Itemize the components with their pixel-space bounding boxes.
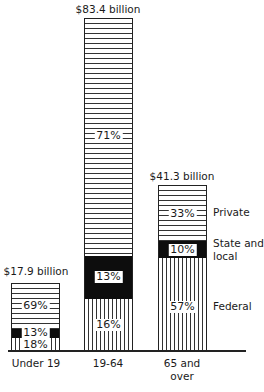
pct-private: 69%	[21, 300, 49, 312]
category-label-65-over: 65 and over	[164, 357, 200, 383]
category-label-line2: over	[164, 370, 200, 383]
legend-private: Private	[213, 206, 250, 219]
bar-19-64: 71% 13% 16%	[84, 18, 133, 351]
category-label-line1: 65 and	[164, 357, 200, 370]
pct-federal: 16%	[94, 319, 122, 331]
category-label-text: 19-64	[93, 357, 124, 369]
total-label-under-19: $17.9 billion	[4, 265, 69, 277]
x-axis-baseline	[8, 350, 246, 352]
legend-state-line2: local	[213, 250, 264, 263]
category-label-text: Under 19	[12, 357, 60, 369]
pct-private: 33%	[168, 208, 196, 220]
bar-under-19: 69% 13% 18%	[11, 283, 60, 351]
legend-federal: Federal	[213, 300, 252, 313]
total-label-19-64: $83.4 billion	[76, 3, 141, 15]
total-label-65-over: $41.3 billion	[150, 170, 215, 182]
category-label-19-64: 19-64	[93, 357, 124, 370]
pct-state-local: 10%	[168, 244, 196, 256]
pct-state-local: 13%	[94, 271, 122, 283]
legend-state-line1: State and	[213, 237, 264, 250]
bar-65-and-over: 33% 10% 57%	[158, 185, 207, 351]
legend-state-local: State and local	[213, 237, 264, 263]
pct-private: 71%	[94, 130, 122, 142]
category-label-under-19: Under 19	[12, 357, 60, 370]
pct-federal: 57%	[168, 301, 196, 313]
